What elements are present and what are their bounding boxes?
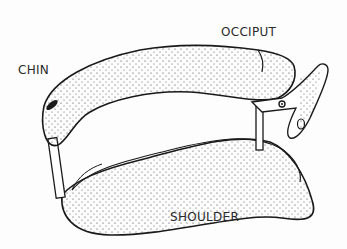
front-post — [48, 138, 65, 199]
occiput-label: OCCIPUT — [221, 25, 276, 39]
collar-diagram: CHIN OCCIPUT SHOULDER — [0, 0, 347, 249]
chin-label: CHIN — [18, 63, 49, 77]
shoulder-label: SHOULDER — [170, 210, 239, 224]
